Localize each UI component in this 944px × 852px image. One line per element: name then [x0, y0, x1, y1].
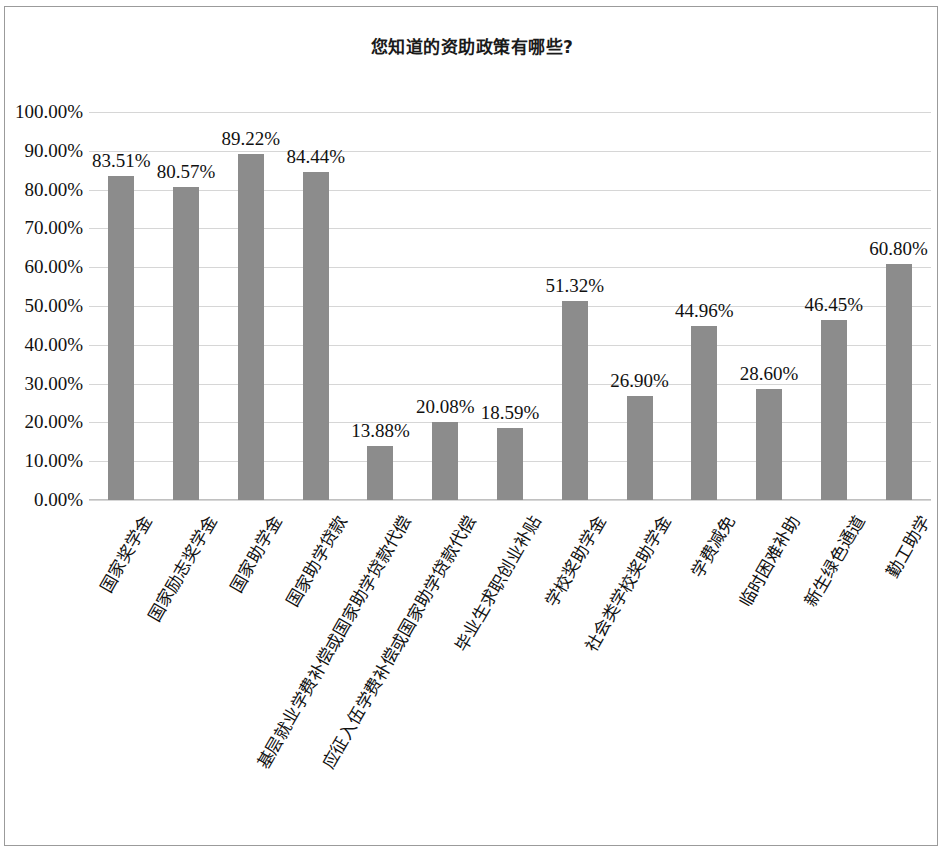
bar[interactable]	[562, 301, 588, 500]
bar[interactable]	[432, 422, 458, 500]
y-axis-tick-label: 90.00%	[0, 140, 83, 162]
bar-value-label: 51.32%	[545, 275, 604, 297]
y-axis-tick-label: 50.00%	[0, 295, 83, 317]
bar-value-label: 44.96%	[675, 300, 734, 322]
bar[interactable]	[756, 389, 782, 500]
bar-group: 89.22%	[219, 112, 284, 500]
bar-value-label: 13.88%	[351, 420, 410, 442]
bar-value-label: 89.22%	[222, 128, 281, 150]
bar-group: 46.45%	[801, 112, 866, 500]
bar-group: 26.90%	[607, 112, 672, 500]
x-axis-category-label: 新生绿色通道	[797, 510, 870, 611]
x-axis-category-label: 国家助学贷款	[279, 510, 352, 611]
bar-group: 84.44%	[283, 112, 348, 500]
bar[interactable]	[238, 154, 264, 500]
bar[interactable]	[173, 187, 199, 500]
plot-area: 0.00%10.00%20.00%30.00%40.00%50.00%60.00…	[89, 112, 931, 500]
bar-value-label: 46.45%	[805, 294, 864, 316]
bar-group: 80.57%	[154, 112, 219, 500]
y-axis-tick-label: 80.00%	[0, 179, 83, 201]
y-axis-tick-label: 60.00%	[0, 256, 83, 278]
bar-group: 28.60%	[737, 112, 802, 500]
bar-value-label: 84.44%	[286, 146, 345, 168]
x-axis-category-label: 国家助学金	[222, 510, 286, 596]
x-axis-category-label: 勤工助学	[879, 510, 935, 581]
bar-group: 60.80%	[866, 112, 931, 500]
bar-group: 13.88%	[348, 112, 413, 500]
y-axis-tick-label: 100.00%	[0, 101, 83, 123]
bar[interactable]	[367, 446, 393, 500]
x-axis-category-label: 临时困难补助	[732, 510, 805, 611]
bar[interactable]	[627, 396, 653, 500]
bar-value-label: 20.08%	[416, 396, 475, 418]
bar[interactable]	[691, 326, 717, 500]
bar-value-label: 83.51%	[92, 150, 151, 172]
y-axis-tick-label: 40.00%	[0, 334, 83, 356]
chart-page: 您知道的资助政策有哪些? 0.00%10.00%20.00%30.00%40.0…	[0, 0, 944, 852]
bar-group: 44.96%	[672, 112, 737, 500]
bar[interactable]	[303, 172, 329, 500]
bar-group: 51.32%	[542, 112, 607, 500]
x-axis-category-label: 学费减免	[684, 510, 740, 581]
bar[interactable]	[886, 264, 912, 500]
bar[interactable]	[108, 176, 134, 500]
x-axis-category-label: 学校奖助学金	[538, 510, 611, 611]
bar[interactable]	[497, 428, 523, 500]
y-axis-tick-label: 30.00%	[0, 373, 83, 395]
x-axis-category-label: 国家奖学金	[93, 510, 157, 596]
y-axis-tick-label: 0.00%	[0, 489, 83, 511]
bar-value-label: 28.60%	[740, 363, 799, 385]
bar-value-label: 80.57%	[157, 161, 216, 183]
bar-group: 18.59%	[478, 112, 543, 500]
gridline	[89, 500, 931, 501]
bar[interactable]	[821, 320, 847, 500]
bar-value-label: 60.80%	[869, 238, 928, 260]
chart-title: 您知道的资助政策有哪些?	[5, 33, 939, 58]
bar-value-label: 18.59%	[481, 402, 540, 424]
bar-group: 20.08%	[413, 112, 478, 500]
bar-value-label: 26.90%	[610, 370, 669, 392]
bar-group: 83.51%	[89, 112, 154, 500]
y-axis-tick-label: 10.00%	[0, 450, 83, 472]
chart-frame: 您知道的资助政策有哪些? 0.00%10.00%20.00%30.00%40.0…	[4, 6, 938, 846]
y-axis-tick-label: 20.00%	[0, 411, 83, 433]
y-axis-tick-label: 70.00%	[0, 217, 83, 239]
